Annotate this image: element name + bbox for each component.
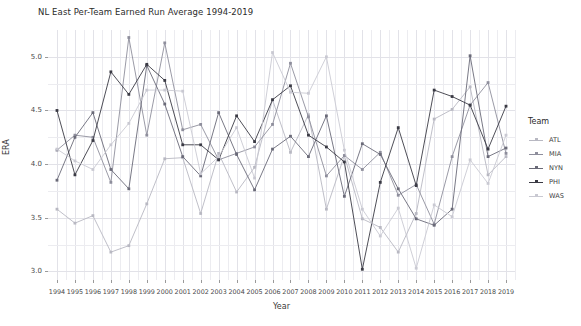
data-point-marker [379, 226, 382, 229]
data-point-marker [415, 267, 418, 270]
data-point-marker [109, 181, 112, 184]
data-point-marker [379, 153, 382, 156]
x-tick-label: 2010 [336, 288, 352, 296]
y-axis-title: ERA [2, 139, 11, 155]
data-point-marker [379, 235, 382, 238]
data-point-marker [397, 251, 400, 254]
data-point-marker [235, 153, 238, 156]
data-point-marker [361, 217, 364, 220]
data-point-marker [56, 148, 59, 151]
x-tick-label: 1995 [67, 288, 83, 296]
x-tick-label: 2019 [498, 288, 514, 296]
data-point-marker [56, 109, 59, 112]
x-axis-title: Year [48, 302, 515, 311]
x-tick-label: 2008 [300, 288, 316, 296]
data-point-marker [433, 118, 436, 121]
data-point-marker [307, 92, 310, 95]
data-point-marker [325, 55, 328, 58]
x-tick-mark [219, 280, 220, 283]
data-point-marker [181, 143, 184, 146]
data-point-marker [307, 134, 310, 137]
data-point-marker [361, 268, 364, 271]
legend-swatch-icon [528, 135, 544, 145]
data-point-marker [325, 114, 328, 117]
y-tick-label: 5.0 [31, 53, 42, 61]
data-point-marker [145, 202, 148, 205]
data-point-marker [199, 172, 202, 175]
x-tick-label: 2011 [354, 288, 370, 296]
data-point-marker [74, 173, 77, 176]
x-tick-label: 2000 [157, 288, 173, 296]
x-tick-mark [57, 280, 58, 283]
data-point-marker [505, 152, 508, 155]
x-tick-mark [506, 280, 507, 283]
x-tick-label: 2003 [210, 288, 226, 296]
data-point-marker [217, 158, 220, 161]
data-point-marker [271, 123, 274, 126]
x-tick-mark [147, 280, 148, 283]
data-point-marker [271, 51, 274, 54]
x-tick-mark [470, 280, 471, 283]
data-point-marker [451, 208, 454, 211]
data-point-marker [415, 217, 418, 220]
data-point-marker [199, 123, 202, 126]
data-point-marker [127, 244, 130, 247]
data-point-marker [235, 191, 238, 194]
legend-item-mia[interactable]: MIA [528, 147, 581, 161]
data-point-marker [469, 158, 472, 161]
x-tick-mark [380, 280, 381, 283]
legend: Team ATLMIANYNPHIWAS [528, 117, 581, 203]
data-point-marker [469, 54, 472, 57]
legend-items: ATLMIANYNPHIWAS [528, 133, 581, 203]
legend-item-label: ATL [549, 136, 561, 144]
data-point-marker [415, 184, 418, 187]
x-tick-label: 2007 [282, 288, 298, 296]
x-tick-mark [452, 280, 453, 283]
y-tick-label: 3.5 [31, 214, 42, 222]
data-point-marker [289, 151, 292, 154]
data-point-marker [74, 222, 77, 225]
data-point-marker [397, 126, 400, 129]
x-tick-mark [75, 280, 76, 283]
data-point-marker [74, 160, 77, 163]
data-point-marker [235, 114, 238, 117]
x-tick-mark [273, 280, 274, 283]
legend-item-atl[interactable]: ATL [528, 133, 581, 147]
x-tick-label: 2018 [480, 288, 496, 296]
x-tick-label: 2015 [426, 288, 442, 296]
gridline-vertical-minor [515, 30, 516, 280]
legend-item-nyn[interactable]: NYN [528, 161, 581, 175]
x-tick-label: 2012 [372, 288, 388, 296]
data-point-marker [127, 36, 130, 39]
data-point-marker [253, 177, 256, 180]
data-point-marker [253, 188, 256, 191]
data-point-marker [361, 142, 364, 145]
data-point-marker [433, 203, 436, 206]
data-point-marker [289, 84, 292, 87]
data-point-marker [181, 90, 184, 93]
data-point-marker [505, 147, 508, 150]
series-line [57, 56, 506, 226]
data-point-marker [127, 93, 130, 96]
data-point-marker [343, 149, 346, 152]
data-point-marker [397, 187, 400, 190]
data-point-marker [505, 155, 508, 158]
data-point-marker [325, 208, 328, 211]
x-tick-label: 2005 [246, 288, 262, 296]
legend-item-was[interactable]: WAS [528, 189, 581, 203]
data-point-marker [92, 214, 95, 217]
data-point-marker [145, 134, 148, 137]
data-point-marker [487, 155, 490, 158]
x-tick-mark [183, 280, 184, 283]
x-tick-label: 1996 [85, 288, 101, 296]
legend-item-label: NYN [549, 164, 563, 172]
legend-title: Team [528, 117, 581, 126]
legend-item-phi[interactable]: PHI [528, 175, 581, 189]
data-point-marker [253, 146, 256, 149]
x-tick-label: 2004 [228, 288, 244, 296]
legend-swatch-icon [528, 177, 544, 187]
legend-swatch-icon [528, 191, 544, 201]
data-point-marker [217, 111, 220, 114]
data-point-marker [74, 136, 77, 139]
plot-area [48, 30, 515, 280]
